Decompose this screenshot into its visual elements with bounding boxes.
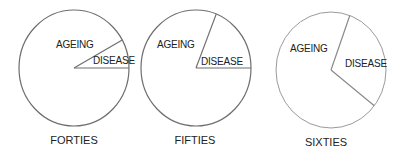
pie-chart-forties: AGEING DISEASE FORTIES: [19, 10, 135, 146]
pie-title: FORTIES: [50, 134, 97, 146]
pie-chart-fifties: AGEING DISEASE FIFTIES: [141, 10, 251, 146]
slice-label-ageing: AGEING: [56, 39, 94, 50]
pie-title: SIXTIES: [305, 136, 347, 148]
pie-charts: AGEING DISEASE FORTIES AGEING DISEASE FI…: [0, 0, 407, 156]
slice-label-ageing: AGEING: [290, 43, 328, 54]
slice-label-disease: DISEASE: [93, 55, 135, 66]
pie-title: FIFTIES: [175, 134, 216, 146]
slice-label-disease: DISEASE: [201, 56, 243, 67]
pie-chart-sixties: AGEING DISEASE SIXTIES: [276, 12, 387, 148]
slice-label-disease: DISEASE: [345, 58, 387, 69]
slice-label-ageing: AGEING: [157, 39, 195, 50]
